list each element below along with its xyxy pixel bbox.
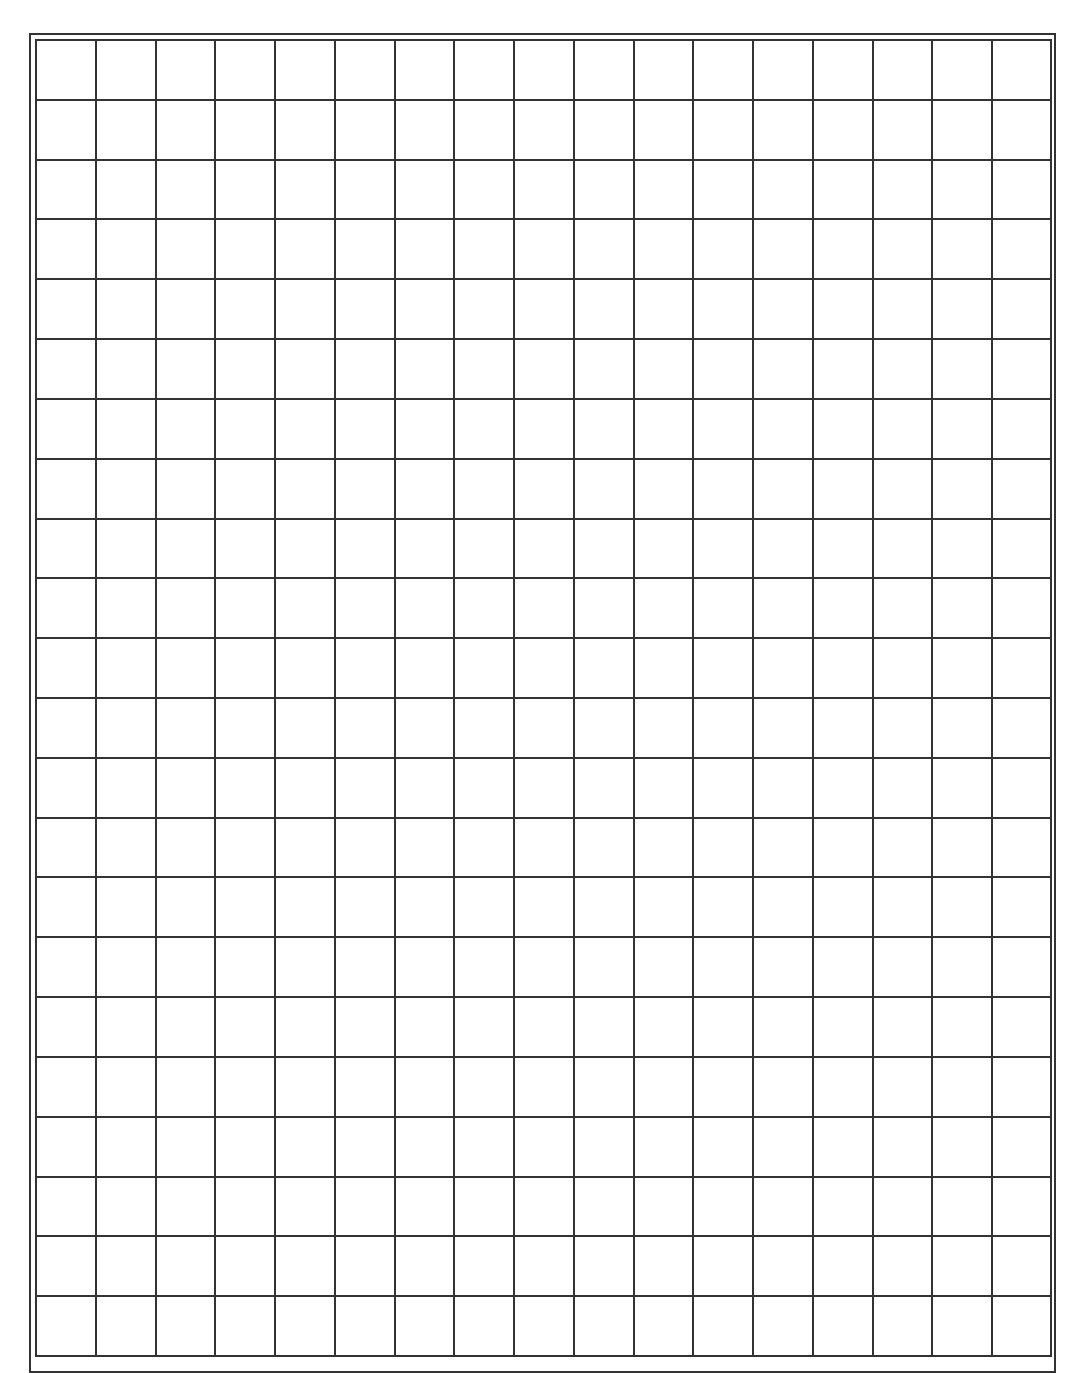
grid-horizontal-line <box>35 577 1052 579</box>
grid-horizontal-line <box>35 1176 1052 1178</box>
grid-horizontal-line <box>35 458 1052 460</box>
grid-horizontal-line <box>35 218 1052 220</box>
grid-horizontal-line <box>35 338 1052 340</box>
grid-horizontal-line <box>35 996 1052 998</box>
grid-horizontal-line <box>35 159 1052 161</box>
grid-horizontal-line <box>35 876 1052 878</box>
grid-horizontal-line <box>35 817 1052 819</box>
grid-horizontal-line <box>35 697 1052 699</box>
grid-horizontal-line <box>35 398 1052 400</box>
grid-horizontal-line <box>35 1116 1052 1118</box>
grid-horizontal-line <box>35 1235 1052 1237</box>
grid-horizontal-line <box>35 278 1052 280</box>
grid-horizontal-line <box>35 99 1052 101</box>
grid-horizontal-line <box>35 1056 1052 1058</box>
grid-horizontal-line <box>35 757 1052 759</box>
grid-horizontal-line <box>35 637 1052 639</box>
grid-horizontal-line <box>35 518 1052 520</box>
grid-horizontal-line <box>35 936 1052 938</box>
grid-horizontal-line <box>35 1295 1052 1297</box>
